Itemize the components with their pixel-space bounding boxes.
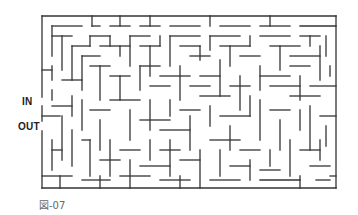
maze-inner-walls [42, 16, 336, 188]
maze-board [0, 0, 358, 215]
entrance-label: IN [22, 96, 32, 107]
maze-outer-wall [42, 16, 336, 188]
exit-label: OUT [18, 121, 40, 132]
figure-caption: 図-07 [39, 197, 65, 212]
